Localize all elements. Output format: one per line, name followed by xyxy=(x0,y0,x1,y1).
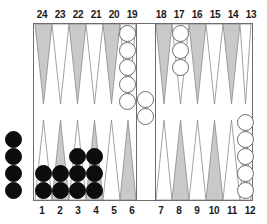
point-triangle-18[interactable] xyxy=(156,24,172,104)
point-label-17: 17 xyxy=(170,9,188,20)
point-label-2: 2 xyxy=(51,205,69,216)
checker-white-bar-2[interactable] xyxy=(137,108,154,125)
point-triangle-6[interactable] xyxy=(120,120,136,200)
point-label-9: 9 xyxy=(188,205,206,216)
point-label-23: 23 xyxy=(51,9,69,20)
checker-black-off-3[interactable] xyxy=(5,165,22,182)
point-label-13: 13 xyxy=(242,9,260,20)
checker-black-2-1[interactable] xyxy=(52,182,69,199)
point-label-12: 12 xyxy=(241,205,259,216)
point-label-7: 7 xyxy=(152,205,170,216)
point-label-22: 22 xyxy=(69,9,87,20)
point-label-24: 24 xyxy=(33,9,51,20)
checker-white-17-2[interactable] xyxy=(172,42,189,59)
board-frame xyxy=(33,23,253,201)
point-label-11: 11 xyxy=(223,205,241,216)
checker-white-12-1[interactable] xyxy=(237,114,254,131)
point-triangle-24[interactable] xyxy=(35,24,52,104)
checker-black-4-3[interactable] xyxy=(86,148,103,165)
checker-white-19-4[interactable] xyxy=(119,76,136,93)
checker-black-3-3[interactable] xyxy=(69,148,86,165)
checker-white-19-1[interactable] xyxy=(119,25,136,42)
checker-white-12-2[interactable] xyxy=(237,131,254,148)
point-triangle-10[interactable] xyxy=(206,120,223,200)
checker-white-19-3[interactable] xyxy=(119,59,136,76)
point-label-1: 1 xyxy=(33,205,51,216)
point-label-10: 10 xyxy=(205,205,223,216)
point-label-8: 8 xyxy=(170,205,188,216)
point-triangle-22[interactable] xyxy=(69,24,86,104)
point-label-19: 19 xyxy=(123,9,141,20)
checker-black-off-4[interactable] xyxy=(5,182,22,199)
checker-black-4-1[interactable] xyxy=(86,182,103,199)
point-triangle-15[interactable] xyxy=(206,24,223,104)
point-label-20: 20 xyxy=(105,9,123,20)
point-label-4: 4 xyxy=(87,205,105,216)
checker-white-12-5[interactable] xyxy=(237,182,254,199)
checker-black-4-2[interactable] xyxy=(86,165,103,182)
checker-white-17-3[interactable] xyxy=(172,59,189,76)
checker-white-19-5[interactable] xyxy=(119,93,136,110)
checker-black-2-2[interactable] xyxy=(52,165,69,182)
point-label-15: 15 xyxy=(206,9,224,20)
point-triangle-5[interactable] xyxy=(103,120,120,200)
checker-black-off-2[interactable] xyxy=(5,148,22,165)
point-triangle-20[interactable] xyxy=(103,24,120,104)
point-label-16: 16 xyxy=(188,9,206,20)
bar-divider-right xyxy=(155,24,156,200)
point-triangle-21[interactable] xyxy=(86,24,103,104)
checker-white-12-4[interactable] xyxy=(237,165,254,182)
point-label-21: 21 xyxy=(87,9,105,20)
checker-black-off-1[interactable] xyxy=(5,131,22,148)
checker-black-3-2[interactable] xyxy=(69,165,86,182)
point-label-18: 18 xyxy=(152,9,170,20)
checker-white-bar-1[interactable] xyxy=(137,91,154,108)
point-triangle-14[interactable] xyxy=(223,24,240,104)
point-label-14: 14 xyxy=(224,9,242,20)
point-label-3: 3 xyxy=(69,205,87,216)
point-triangle-9[interactable] xyxy=(189,120,206,200)
point-triangle-7[interactable] xyxy=(156,120,172,200)
checker-black-1-1[interactable] xyxy=(35,182,52,199)
point-label-5: 5 xyxy=(105,205,123,216)
point-triangle-23[interactable] xyxy=(52,24,69,104)
checker-white-17-1[interactable] xyxy=(172,25,189,42)
checker-white-12-3[interactable] xyxy=(237,148,254,165)
checker-black-3-1[interactable] xyxy=(69,182,86,199)
backgammon-board: 24 23 22 21 20 19 18 17 16 15 14 13 1 2 … xyxy=(0,0,267,224)
checker-black-1-2[interactable] xyxy=(35,165,52,182)
point-label-6: 6 xyxy=(123,205,141,216)
checker-white-19-2[interactable] xyxy=(119,42,136,59)
point-triangle-16[interactable] xyxy=(189,24,206,104)
point-triangle-13[interactable] xyxy=(240,24,251,104)
point-triangle-8[interactable] xyxy=(172,120,189,200)
